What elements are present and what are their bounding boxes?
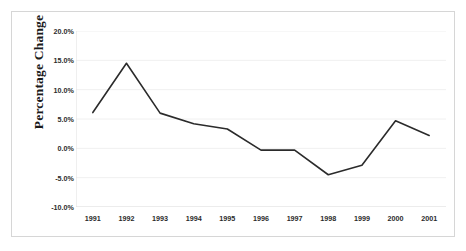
y-tick-label: -5.0%: [32, 173, 74, 182]
plot-svg: [76, 31, 446, 207]
y-axis-tick-labels: 20.0%15.0%10.0%5.0%0.0%-5.0%-10.0%: [32, 24, 74, 200]
y-tick-label: 0.0%: [32, 144, 74, 153]
x-axis-tick-labels: 1991199219931994199519961997199819992000…: [76, 214, 446, 228]
y-tick-label: 5.0%: [32, 115, 74, 124]
y-tick-label: 15.0%: [32, 56, 74, 65]
y-tick-label: 10.0%: [32, 85, 74, 94]
gridlines: [76, 31, 446, 207]
plot-area: [76, 31, 446, 207]
y-tick-label: -10.0%: [32, 203, 74, 212]
x-tick-label: 2001: [407, 214, 451, 223]
y-tick-label: 20.0%: [32, 27, 74, 36]
percentage-change-line-chart: Percentage Change 20.0%15.0%10.0%5.0%0.0…: [0, 0, 466, 251]
